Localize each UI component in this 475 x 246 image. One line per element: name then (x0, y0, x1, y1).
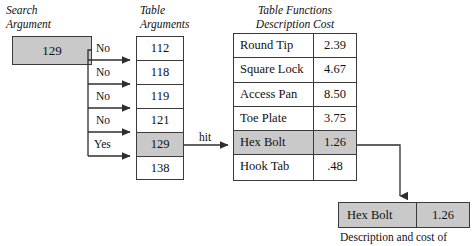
compare-label-4: No (96, 114, 110, 126)
result-description: Hex Bolt (339, 203, 417, 227)
table-row: Square Lock 4.67 (234, 58, 356, 82)
table-row: Round Tip 2.39 (234, 34, 356, 58)
table-row: Hook Tab .48 (234, 155, 356, 179)
function-cost: 8.50 (314, 83, 356, 106)
table-row: 138 (137, 157, 183, 181)
function-description: Hex Bolt (234, 131, 314, 154)
compare-label-2: No (96, 66, 110, 78)
compare-label-5: Yes (94, 138, 111, 150)
function-description: Square Lock (234, 58, 314, 81)
table-arguments-header: Table Arguments (140, 4, 189, 31)
table-row-highlighted: Hex Bolt 1.26 (234, 131, 356, 155)
compare-label-3: No (96, 90, 110, 102)
hit-label: hit (199, 131, 211, 143)
table-arguments-list: 112 118 119 121 129 138 (136, 36, 184, 180)
function-description: Toe Plate (234, 107, 314, 130)
table-row: 112 (137, 37, 183, 61)
function-description: Access Pan (234, 83, 314, 106)
function-description: Round Tip (234, 34, 314, 57)
function-cost: 4.67 (314, 58, 356, 81)
diagram-caption: Description and cost of (340, 231, 447, 243)
table-row-highlighted: 129 (137, 133, 183, 157)
table-row: 121 (137, 109, 183, 133)
search-argument-box: 129 (12, 36, 92, 65)
function-cost: 1.26 (314, 131, 356, 154)
search-argument-header: Search Argument (6, 4, 51, 31)
table-row: 118 (137, 61, 183, 85)
table-row: 119 (137, 85, 183, 109)
compare-label-1: No (96, 42, 110, 54)
search-lookup-diagram: Search Argument Table Arguments Table Fu… (0, 0, 475, 246)
result-cost: 1.26 (417, 203, 469, 227)
table-functions-list: Round Tip 2.39 Square Lock 4.67 Access P… (233, 33, 357, 181)
function-cost: 2.39 (314, 34, 356, 57)
table-row: Toe Plate 3.75 (234, 107, 356, 131)
table-row: Access Pan 8.50 (234, 83, 356, 107)
function-cost: .48 (314, 155, 356, 179)
result-box: Hex Bolt 1.26 (338, 202, 470, 228)
table-functions-header: Table Functions Description Cost (233, 4, 357, 31)
function-description: Hook Tab (234, 155, 314, 179)
function-cost: 3.75 (314, 107, 356, 130)
